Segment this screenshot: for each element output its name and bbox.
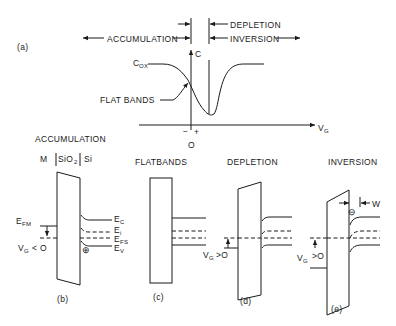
layer-oxide-label: SiO bbox=[58, 154, 73, 164]
ev-band bbox=[262, 245, 292, 248]
layer-oxide-sub: 2 bbox=[74, 159, 78, 165]
panel-e-title: INVERSION bbox=[328, 157, 377, 167]
vg-sub: G bbox=[24, 248, 29, 254]
panel-b: ACCUMULATION M SiO 2 Si E FM E C E i E F… bbox=[16, 134, 128, 304]
region-accumulation-label: ACCUMULATION bbox=[107, 34, 178, 44]
ec-band bbox=[81, 215, 112, 220]
efs-sub: FS bbox=[120, 239, 128, 245]
minus-sign: − bbox=[183, 126, 188, 136]
cv-curve bbox=[148, 64, 264, 115]
panel-e: INVERSION W ⊖ V G >O (e) bbox=[297, 157, 380, 315]
oxide-barrier bbox=[238, 182, 261, 300]
electron-symbol: ⊖ bbox=[348, 207, 356, 217]
ev-sub: V bbox=[120, 248, 124, 254]
panel-d-title: DEPLETION bbox=[227, 157, 278, 167]
vg-sub: G bbox=[303, 258, 308, 264]
panel-c: FLATBANDS (c) bbox=[135, 157, 206, 302]
ec-sub: C bbox=[120, 219, 125, 225]
efm-sub: FM bbox=[22, 221, 31, 227]
panel-b-title: ACCUMULATION bbox=[35, 134, 106, 144]
width-label: W bbox=[372, 199, 380, 209]
mos-capacitor-diagram: (a) DEPLETION ACCUMULATION INVERSION C V… bbox=[0, 0, 396, 326]
origin-label: O bbox=[188, 140, 195, 150]
layer-si-label: Si bbox=[84, 154, 92, 164]
panel-e-caption: (e) bbox=[331, 304, 342, 314]
vg-condition: >O bbox=[312, 251, 324, 261]
layer-metal-label: M bbox=[40, 154, 47, 164]
ei-band bbox=[81, 228, 112, 232]
oxide-barrier bbox=[150, 178, 172, 283]
ei-band bbox=[350, 231, 380, 238]
ev-band bbox=[350, 245, 380, 252]
hole-symbol: ⊕ bbox=[82, 245, 90, 255]
panel-c-caption: (c) bbox=[153, 292, 164, 302]
ec-band bbox=[350, 217, 380, 225]
ei-band bbox=[262, 231, 292, 234]
ec-band bbox=[262, 217, 292, 221]
flat-bands-label: FLAT BANDS bbox=[100, 95, 155, 105]
oxide-barrier bbox=[327, 190, 349, 315]
flat-bands-pointer bbox=[160, 83, 188, 100]
oxide-barrier bbox=[57, 172, 80, 285]
panel-b-caption: (b) bbox=[57, 294, 68, 304]
vg-sub: G bbox=[209, 255, 214, 261]
region-depletion-label: DEPLETION bbox=[230, 20, 281, 30]
vg-condition: >O bbox=[216, 250, 228, 260]
plus-sign: + bbox=[194, 127, 199, 137]
panel-c-title: FLATBANDS bbox=[135, 157, 187, 167]
panel-a: (a) DEPLETION ACCUMULATION INVERSION C V… bbox=[17, 18, 329, 150]
vg-condition: < O bbox=[32, 243, 47, 253]
ei-sub: i bbox=[120, 230, 122, 236]
c-axis-label: C bbox=[195, 49, 201, 59]
panel-d: DEPLETION V G >O (d) bbox=[203, 157, 292, 306]
vg-axis-sub: G bbox=[324, 128, 329, 134]
panel-a-label: (a) bbox=[17, 42, 28, 52]
cox-sub: OX bbox=[139, 63, 148, 69]
region-inversion-label: INVERSION bbox=[230, 34, 279, 44]
panel-d-caption: (d) bbox=[240, 296, 251, 306]
